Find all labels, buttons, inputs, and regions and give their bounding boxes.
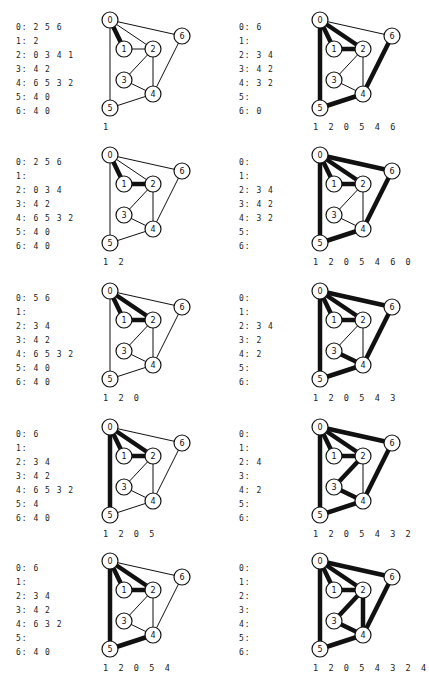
step-panel: 0:1:2:3:4:5:6:01234561 2 0 5 4 3 2 4 — [210, 547, 419, 683]
vertex-3: 3 — [116, 207, 132, 223]
svg-text:1: 1 — [331, 316, 336, 325]
vertex-0: 0 — [312, 283, 328, 299]
vertex-4: 4 — [145, 627, 161, 643]
vertex-4: 4 — [145, 86, 161, 102]
vertex-1: 1 — [326, 41, 342, 57]
step-panel: 0: 2 5 61: 22: 0 3 4 13: 4 24: 6 5 3 25:… — [0, 6, 209, 142]
vertex-5: 5 — [312, 371, 328, 387]
svg-text:1: 1 — [331, 45, 336, 54]
svg-text:6: 6 — [389, 32, 394, 41]
vertex-1: 1 — [116, 448, 132, 464]
vertex-4: 4 — [145, 221, 161, 237]
svg-text:5: 5 — [107, 645, 112, 654]
svg-text:4: 4 — [360, 631, 365, 640]
svg-text:2: 2 — [360, 452, 365, 461]
step-panel: 0: 61:2: 3 43: 4 24: 6 3 25:6: 4 0012345… — [0, 547, 209, 683]
tour-sequence-caption: 1 2 0 5 4 6 0 — [313, 257, 413, 267]
svg-text:2: 2 — [360, 316, 365, 325]
vertex-2: 2 — [145, 176, 161, 192]
svg-text:6: 6 — [389, 303, 394, 312]
vertex-2: 2 — [355, 582, 371, 598]
vertex-0: 0 — [312, 147, 328, 163]
vertex-6: 6 — [174, 569, 190, 585]
vertex-1: 1 — [116, 582, 132, 598]
step-panel: 0: 2 5 61:2: 0 3 43: 4 24: 6 5 3 25: 4 0… — [0, 141, 209, 277]
vertex-4: 4 — [355, 627, 371, 643]
svg-text:1: 1 — [121, 45, 126, 54]
svg-text:4: 4 — [150, 361, 155, 370]
svg-text:5: 5 — [317, 239, 322, 248]
graph-diagram: 0123456 — [0, 277, 209, 402]
svg-text:0: 0 — [107, 423, 112, 432]
svg-text:0: 0 — [107, 557, 112, 566]
vertex-1: 1 — [116, 176, 132, 192]
vertex-3: 3 — [116, 72, 132, 88]
svg-text:3: 3 — [331, 483, 336, 492]
svg-text:3: 3 — [331, 617, 336, 626]
vertex-6: 6 — [384, 163, 400, 179]
vertex-3: 3 — [326, 207, 342, 223]
vertex-5: 5 — [312, 507, 328, 523]
svg-text:2: 2 — [150, 180, 155, 189]
svg-text:4: 4 — [150, 90, 155, 99]
svg-text:1: 1 — [121, 180, 126, 189]
vertex-0: 0 — [312, 12, 328, 28]
vertex-0: 0 — [102, 553, 118, 569]
vertex-0: 0 — [102, 283, 118, 299]
svg-text:5: 5 — [107, 375, 112, 384]
svg-text:3: 3 — [331, 211, 336, 220]
graph-diagram: 0123456 — [0, 413, 209, 538]
vertex-2: 2 — [355, 312, 371, 328]
edge — [110, 20, 182, 36]
vertex-2: 2 — [145, 312, 161, 328]
svg-text:0: 0 — [317, 423, 322, 432]
svg-text:6: 6 — [179, 167, 184, 176]
tour-sequence-caption: 1 2 0 5 4 3 2 4 — [313, 663, 429, 673]
svg-text:5: 5 — [107, 511, 112, 520]
svg-text:3: 3 — [121, 347, 126, 356]
svg-text:2: 2 — [150, 316, 155, 325]
vertex-3: 3 — [326, 479, 342, 495]
vertex-1: 1 — [326, 176, 342, 192]
vertex-5: 5 — [312, 100, 328, 116]
step-panel: 0:1:2: 3 43: 4 24: 3 25:6:01234561 2 0 5… — [210, 141, 419, 277]
vertex-5: 5 — [102, 235, 118, 251]
svg-text:6: 6 — [179, 32, 184, 41]
step-panel: 0:1:2: 3 43: 24: 25:6:01234561 2 0 5 4 3 — [210, 277, 419, 413]
svg-text:2: 2 — [360, 586, 365, 595]
svg-text:1: 1 — [331, 586, 336, 595]
vertex-1: 1 — [326, 582, 342, 598]
vertex-0: 0 — [102, 147, 118, 163]
tour-sequence-caption: 1 — [103, 122, 111, 132]
svg-text:0: 0 — [107, 287, 112, 296]
vertex-4: 4 — [355, 86, 371, 102]
vertex-5: 5 — [102, 507, 118, 523]
svg-text:4: 4 — [150, 631, 155, 640]
vertex-6: 6 — [384, 435, 400, 451]
svg-text:4: 4 — [360, 90, 365, 99]
vertex-2: 2 — [145, 41, 161, 57]
svg-text:4: 4 — [360, 497, 365, 506]
tour-sequence-caption: 1 2 0 5 4 6 — [313, 122, 398, 132]
vertex-6: 6 — [174, 299, 190, 315]
svg-text:6: 6 — [179, 303, 184, 312]
vertex-6: 6 — [384, 569, 400, 585]
svg-text:2: 2 — [150, 452, 155, 461]
vertex-1: 1 — [326, 448, 342, 464]
vertex-0: 0 — [312, 553, 328, 569]
svg-text:5: 5 — [317, 645, 322, 654]
svg-text:3: 3 — [331, 347, 336, 356]
vertex-6: 6 — [174, 163, 190, 179]
tour-sequence-caption: 1 2 0 5 4 3 — [313, 393, 398, 403]
svg-text:6: 6 — [179, 573, 184, 582]
tour-sequence-caption: 1 2 0 5 — [103, 529, 157, 539]
graph-diagram: 0123456 — [210, 277, 419, 402]
svg-text:2: 2 — [360, 45, 365, 54]
svg-text:4: 4 — [360, 361, 365, 370]
svg-text:5: 5 — [107, 104, 112, 113]
vertex-6: 6 — [384, 28, 400, 44]
svg-text:1: 1 — [121, 452, 126, 461]
svg-text:1: 1 — [121, 586, 126, 595]
svg-text:2: 2 — [150, 586, 155, 595]
svg-text:1: 1 — [331, 180, 336, 189]
